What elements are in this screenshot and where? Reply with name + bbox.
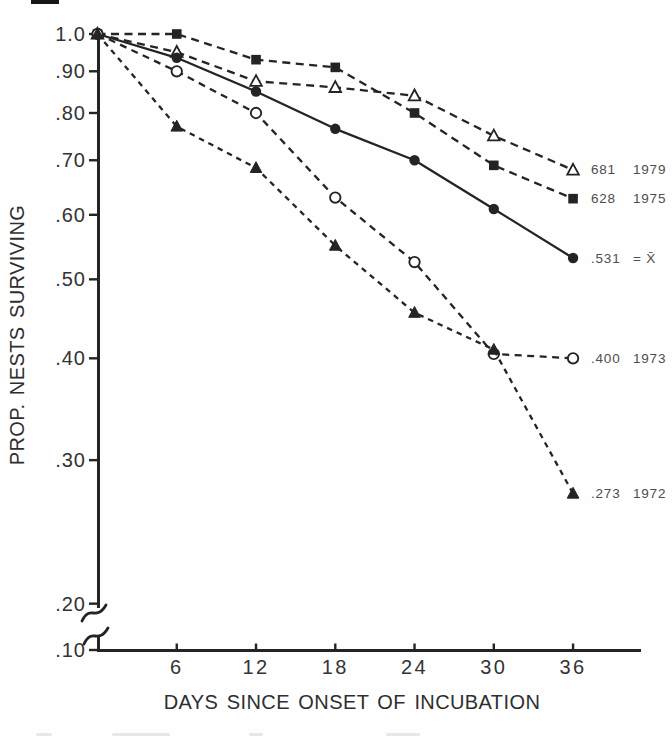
figure-page: 1.0.90.80.70.60.50.40.30.20.106121824303… (0, 0, 672, 737)
legend-mean-value: .531 (591, 251, 620, 266)
marker-mean-day6 (172, 53, 182, 63)
y-axis-title: PROP. NESTS SURVIVING (6, 205, 28, 466)
y-tick-label-.70: .70 (55, 149, 86, 171)
marker-1973-day24 (409, 257, 419, 267)
marker-mean-day24 (409, 155, 419, 165)
marker-1975-day12 (251, 55, 261, 65)
x-axis-title: DAYS SINCE ONSET OF INCUBATION (164, 691, 541, 713)
legend-1973-year: 1973 (633, 351, 666, 366)
x-tick-label-12: 12 (242, 656, 269, 678)
scan-artifact-bottom-mark (112, 733, 170, 736)
axis-break-squiggle-lower (84, 628, 108, 644)
marker-1973-day36 (568, 353, 578, 363)
y-tick-label-.60: .60 (55, 204, 86, 226)
marker-1972-day36 (567, 487, 579, 498)
series-1979: 6811979 (92, 28, 667, 178)
y-tick-label-.40: .40 (55, 347, 86, 369)
marker-1972-day12 (250, 162, 262, 173)
scan-artifact-bottom-mark (386, 733, 420, 736)
marker-1973-day6 (172, 66, 182, 76)
y-axis-ticks: 1.0.90.80.70.60.50.40.30.20.10 (55, 23, 97, 661)
marker-mean-day18 (330, 124, 340, 134)
x-tick-label-36: 36 (559, 656, 586, 678)
axes (82, 28, 641, 651)
y-tick-label-.20: .20 (55, 593, 86, 615)
marker-1973-day12 (251, 108, 261, 118)
survival-line-chart: 1.0.90.80.70.60.50.40.30.20.106121824303… (0, 0, 672, 737)
marker-1975-day18 (330, 63, 340, 73)
legend-1979-value: 681 (591, 162, 616, 177)
marker-1979-day36 (567, 164, 579, 175)
x-tick-label-30: 30 (480, 656, 507, 678)
series-line-1972 (98, 34, 574, 494)
chart-layer: 1.0.90.80.70.60.50.40.30.20.106121824303… (55, 23, 666, 678)
legend-1975-year: 1975 (633, 191, 666, 206)
x-tick-label-6: 6 (170, 656, 184, 678)
legend-1972-value: .273 (591, 486, 620, 501)
scan-artifact-bottom-mark (249, 733, 263, 736)
legend-1979-year: 1979 (633, 162, 666, 177)
y-tick-label-.90: .90 (55, 60, 86, 82)
y-tick-label-.80: .80 (55, 102, 86, 124)
y-tick-label-1.0: 1.0 (55, 23, 86, 45)
x-tick-label-24: 24 (401, 656, 428, 678)
marker-1975-day24 (410, 108, 420, 118)
x-axis-ticks: 61218243036 (170, 644, 587, 679)
scan-artifact-bottom-mark (36, 733, 52, 736)
marker-mean-day12 (251, 86, 261, 96)
y-tick-label-.30: .30 (55, 449, 86, 471)
legend-1972-year: 1972 (633, 486, 666, 501)
series-1973: .4001973 (92, 29, 666, 366)
series-1972: .2731972 (92, 28, 667, 501)
marker-mean-day36 (568, 253, 578, 263)
y-tick-label-.10: .10 (55, 639, 86, 661)
legend-1975-value: 628 (591, 191, 616, 206)
y-tick-label-.50: .50 (55, 268, 86, 290)
marker-1975-day30 (489, 161, 499, 171)
x-tick-label-18: 18 (322, 656, 349, 678)
marker-1975-day36 (568, 194, 578, 204)
marker-mean-day30 (489, 204, 499, 214)
marker-1979-day24 (409, 90, 421, 101)
marker-1973-day18 (330, 192, 340, 202)
marker-1975-day6 (172, 29, 182, 39)
marker-1979-day18 (329, 81, 341, 92)
legend-1973-value: .400 (591, 351, 620, 366)
legend-mean-year: = X̄ (633, 251, 656, 266)
